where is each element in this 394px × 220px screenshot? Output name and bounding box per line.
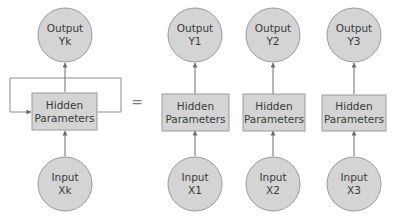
input-var: X1 — [188, 184, 202, 196]
hidden-node: Hidden Parameters — [243, 94, 305, 131]
output-var: Yk — [58, 35, 72, 47]
input-label: Input — [51, 171, 78, 183]
hidden-label-2: Parameters — [324, 113, 384, 125]
hidden-node: Hidden Parameters — [322, 95, 386, 131]
input-label: Input — [259, 171, 286, 183]
output-label: Output — [336, 22, 372, 34]
output-var: Y3 — [346, 35, 360, 47]
rnn-unrolling-diagram: Output Yk Hidden Parameters Input Xk = O… — [0, 0, 394, 220]
unrolled-step-3: Output Y3 Hidden Parameters Input X3 — [322, 8, 386, 211]
output-label: Output — [255, 22, 291, 34]
output-node: Output Yk — [38, 8, 92, 62]
output-label: Output — [177, 22, 213, 34]
hidden-node: Hidden Parameters — [162, 94, 229, 131]
hidden-label-1: Hidden — [335, 100, 372, 112]
hidden-label-2: Parameters — [165, 113, 225, 125]
input-node: Input Xk — [38, 157, 92, 211]
output-var: Y2 — [265, 35, 279, 47]
hidden-label-2: Parameters — [34, 112, 94, 124]
input-label: Input — [340, 171, 367, 183]
hidden-label-1: Hidden — [46, 99, 83, 111]
rolled-rnn: Output Yk Hidden Parameters Input Xk — [10, 8, 121, 211]
input-node: Input X2 — [246, 157, 300, 211]
input-var: X2 — [266, 184, 280, 196]
output-node: Output Y2 — [246, 8, 300, 62]
output-label: Output — [47, 22, 83, 34]
input-node: Input X3 — [327, 157, 381, 211]
output-var: Y1 — [187, 35, 201, 47]
output-node: Output Y3 — [327, 8, 381, 62]
hidden-label-1: Hidden — [177, 100, 214, 112]
equals-sign: = — [131, 94, 143, 110]
unrolled-step-1: Output Y1 Hidden Parameters Input X1 — [162, 8, 229, 211]
input-var: Xk — [58, 184, 72, 196]
input-var: X3 — [347, 184, 361, 196]
output-node: Output Y1 — [168, 8, 222, 62]
input-label: Input — [181, 171, 208, 183]
hidden-node: Hidden Parameters — [32, 93, 97, 130]
hidden-label-2: Parameters — [244, 113, 304, 125]
input-node: Input X1 — [168, 157, 222, 211]
hidden-label-1: Hidden — [255, 100, 292, 112]
unrolled-step-2: Output Y2 Hidden Parameters Input X2 — [243, 8, 305, 211]
